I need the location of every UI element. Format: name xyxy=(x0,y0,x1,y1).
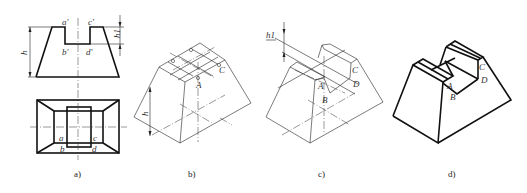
label-D: D xyxy=(352,79,360,89)
base-centerline-2 xyxy=(152,95,225,135)
grid-line xyxy=(190,48,221,66)
corner-edge-tl xyxy=(37,100,54,111)
panel-d: A B C D d) xyxy=(393,41,511,179)
label-h1: h1 xyxy=(112,29,122,38)
label-h: h xyxy=(140,111,150,116)
label-C: C xyxy=(219,65,226,75)
corner-edge-bl xyxy=(37,143,54,153)
base-centerline xyxy=(308,100,350,125)
grid-line xyxy=(178,56,213,76)
point-marker xyxy=(171,59,174,62)
front-view-outline xyxy=(36,27,119,77)
label-C: C xyxy=(479,62,486,72)
label-d: d xyxy=(92,144,97,154)
left-face xyxy=(393,65,443,143)
label-c: c xyxy=(93,133,97,143)
label-h: h xyxy=(19,50,29,55)
corner-edge-br xyxy=(103,143,119,153)
label-a: a xyxy=(59,133,64,143)
label-b-prime: b' xyxy=(62,47,70,57)
label-h1: h1 xyxy=(266,30,275,40)
panel-b: h A C b) xyxy=(134,43,251,179)
label-A: A xyxy=(195,80,202,90)
caption-c: c) xyxy=(318,169,325,179)
top-view xyxy=(30,90,127,160)
construction-line xyxy=(275,38,358,84)
base-centerline xyxy=(180,104,212,123)
base-centerline-2 xyxy=(282,93,355,135)
label-D: D xyxy=(480,75,488,85)
frustum-left-face xyxy=(134,67,185,143)
frustum-left-face xyxy=(266,67,315,143)
top-centerline xyxy=(170,53,215,78)
frustum-top-back-edges xyxy=(159,43,225,67)
label-B: B xyxy=(450,92,456,102)
technical-drawing: a' c' b' d' h h1 a c b d a) xyxy=(0,0,527,193)
label-b: b xyxy=(60,144,65,154)
label-d-prime: d' xyxy=(86,47,94,57)
caption-b: b) xyxy=(188,169,196,179)
frustum-right-face xyxy=(310,59,383,143)
right-block-front-edge xyxy=(350,63,351,78)
label-B: B xyxy=(322,95,328,105)
base-centerline-3 xyxy=(220,118,232,125)
panel-c: h1 A B C D c) xyxy=(266,22,383,179)
right-block-back-edge xyxy=(318,45,322,58)
caption-a: a) xyxy=(74,169,81,179)
label-a-prime: a' xyxy=(62,17,70,27)
panel-a: a' c' b' d' h h1 a c b d a) xyxy=(19,15,127,179)
label-A: A xyxy=(446,81,453,91)
point-marker xyxy=(189,48,192,51)
label-c-prime: c' xyxy=(88,17,95,27)
label-C: C xyxy=(352,65,359,75)
corner-edge-tr xyxy=(103,100,119,111)
caption-d: d) xyxy=(448,169,456,179)
label-A: A xyxy=(317,81,324,91)
front-view xyxy=(28,15,124,88)
